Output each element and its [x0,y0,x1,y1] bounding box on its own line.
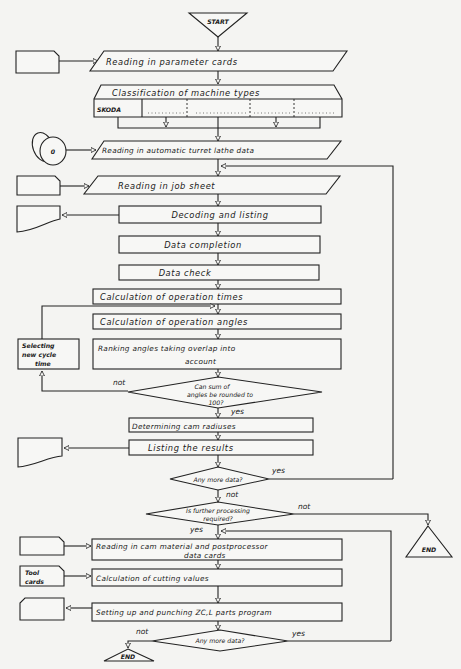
svg-text:Setting up and punching ZC,L p: Setting up and punching ZC,L parts progr… [96,608,272,617]
svg-text:Reading in parameter cards: Reading in parameter cards [106,57,238,67]
svg-text:Reading in automatic turret la: Reading in automatic turret lathe data [102,146,254,155]
svg-text:required?: required? [203,515,233,523]
printout-results-icon [18,438,62,467]
card-output-parts-program-icon [20,598,64,620]
svg-text:time: time [35,360,51,367]
branch-label-no: not [113,378,126,387]
step-ranking-angles: Ranking angles taking overlap into accou… [93,339,341,369]
card-input-tool-cards-icon: Tool cards [20,566,64,586]
branch-label-no: not [226,490,239,499]
branch-label-no: not [136,627,149,636]
decision-any-more-data-1: Any more data? [170,467,269,490]
step-data-completion: Data completion [119,236,320,253]
start-label: START [207,18,229,25]
branch-label-yes: yes [271,466,285,475]
svg-text:cards: cards [25,578,44,585]
branch-label-yes: yes [189,525,203,534]
svg-text:Is further processing: Is further processing [186,507,250,515]
step-calc-cutting-values: Calculation of cutting values [92,569,342,586]
svg-text:Listing the results: Listing the results [148,443,234,453]
svg-text:Selecting: Selecting [22,342,55,350]
decision-any-more-data-2: Any more data? [152,630,288,651]
step-reading-cam-material: Reading in cam material and postprocesso… [92,539,342,560]
magnetic-tape-icon: 0 [28,129,66,165]
svg-text:Ranking angles taking overlap: Ranking angles taking overlap into [98,344,236,353]
branch-label-no: not [298,502,311,511]
step-reading-job-sheet: Reading in job sheet [84,176,340,194]
svg-text:Reading in cam material and po: Reading in cam material and postprocesso… [96,542,268,551]
svg-text:Can sum of: Can sum of [194,383,230,390]
svg-text:0: 0 [51,148,56,155]
svg-text:Calculation of cutting values: Calculation of cutting values [96,574,209,583]
flowchart-canvas: START Reading in parameter cards Classif… [0,0,461,669]
step-reading-parameter-cards: Reading in parameter cards [90,51,347,71]
svg-text:Determining cam radiuses: Determining cam radiuses [132,422,236,431]
svg-text:Classification of machine type: Classification of machine types [112,88,260,98]
card-input-parameter-icon [16,51,59,73]
svg-text:Tool: Tool [25,569,40,576]
step-calc-operation-times: Calculation of operation times [93,289,341,304]
svg-text:Calculation of operation angle: Calculation of operation angles [100,317,248,327]
svg-text:END: END [121,653,136,660]
step-determining-cam-radiuses: Determining cam radiuses [129,418,313,432]
svg-text:Calculation of operation times: Calculation of operation times [100,292,243,302]
card-input-job-sheet-icon [17,176,60,195]
step-calc-operation-angles: Calculation of operation angles [93,314,341,329]
printout-listing-icon [17,206,60,232]
end-terminal-1: END [406,526,452,557]
svg-text:data cards: data cards [184,551,226,560]
svg-text:new cycle: new cycle [22,351,56,359]
decision-angles-rounded: Can sum of angles be rounded to 100? [128,377,322,408]
branch-label-yes: yes [291,629,305,638]
step-selecting-new-cycle-time: Selecting new cycle time [18,339,79,369]
svg-text:END: END [422,546,437,553]
step-listing-results: Listing the results [129,440,313,455]
svg-text:Reading in job sheet: Reading in job sheet [118,181,215,191]
svg-text:account: account [185,357,217,366]
svg-text:Data check: Data check [159,268,212,278]
step-classification-machine-types: Classification of machine types SKODA [94,85,342,117]
start-terminal: START [189,13,247,37]
decision-further-processing: Is further processing required? [146,502,294,525]
card-input-cam-material-icon [20,537,64,555]
svg-text:angles be rounded to: angles be rounded to [187,391,253,399]
step-decoding-listing: Decoding and listing [119,206,321,223]
svg-text:Any more data?: Any more data? [194,637,245,645]
svg-text:Decoding and listing: Decoding and listing [171,210,268,220]
svg-text:Data completion: Data completion [164,240,242,250]
step-setting-up-punching-program: Setting up and punching ZC,L parts progr… [92,603,342,621]
step-data-check: Data check [119,265,319,280]
svg-text:Any more data?: Any more data? [192,476,243,484]
svg-text:SKODA: SKODA [97,106,121,113]
step-reading-turret-lathe-data: Reading in automatic turret lathe data [92,141,341,159]
svg-text:100?: 100? [208,399,224,406]
end-terminal-2: END [104,649,154,661]
branch-label-yes: yes [230,407,244,416]
